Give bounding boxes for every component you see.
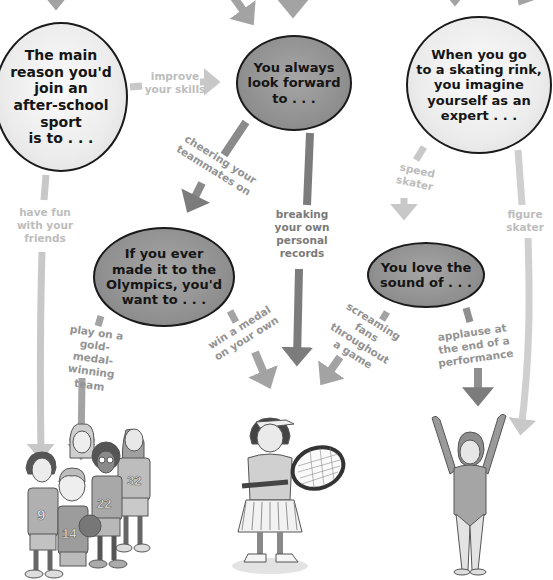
arrow-q2-to-individual-top <box>307 133 310 205</box>
question-text-q4: If you ever made it to the Olympics, you… <box>106 246 222 307</box>
question-text-q1: The main reason you'd join an after-scho… <box>10 47 112 146</box>
arrow-into-q2-left <box>230 0 250 20</box>
question-text-q5: You love the sound of . . . <box>380 260 472 291</box>
question-bubble-q3: When you go to a skating rink, you imagi… <box>406 16 552 154</box>
tennis-player-illustration <box>230 408 360 578</box>
arrow-q3-to-q5 <box>416 147 424 160</box>
answer-label-figure-skater: figure skater <box>500 208 550 234</box>
answer-label-gold-medal-team: play on a gold-medal- winning team <box>54 321 132 396</box>
question-text-q3: When you go to a skating rink, you imagi… <box>416 47 542 124</box>
gymnast-illustration <box>420 410 520 580</box>
arrow-q4-to-individual <box>230 311 236 322</box>
question-bubble-q1: The main reason you'd join an after-scho… <box>0 22 128 172</box>
question-bubble-q4: If you ever made it to the Olympics, you… <box>93 227 235 327</box>
arrow-q2-to-q4 <box>224 122 246 155</box>
arrow-q1-to-team <box>44 175 46 200</box>
arrow-q3-to-performance <box>518 150 522 205</box>
arrow-q4-to-team <box>98 316 101 326</box>
svg-text:22: 22 <box>97 496 111 511</box>
svg-text:32: 32 <box>127 473 141 488</box>
answer-label-improve-skills: improve your skills <box>140 70 210 96</box>
svg-text:14: 14 <box>62 526 77 541</box>
basketball-team-illustration: 32 22 9 <box>14 410 154 580</box>
arrow-q5-to-performance <box>466 308 470 322</box>
answer-label-breaking-records: breaking your own personal records <box>272 208 332 261</box>
question-text-q2: You always look forward to . . . <box>248 60 341 106</box>
question-bubble-q2: You always look forward to . . . <box>236 35 352 131</box>
arrow-q2-to-individual <box>297 269 299 360</box>
answer-label-have-fun: have fun with your friends <box>10 206 80 245</box>
quiz-flowchart: The main reason you'd join an after-scho… <box>0 0 553 580</box>
question-bubble-q5: You love the sound of . . . <box>367 242 485 308</box>
svg-text:9: 9 <box>37 506 45 523</box>
